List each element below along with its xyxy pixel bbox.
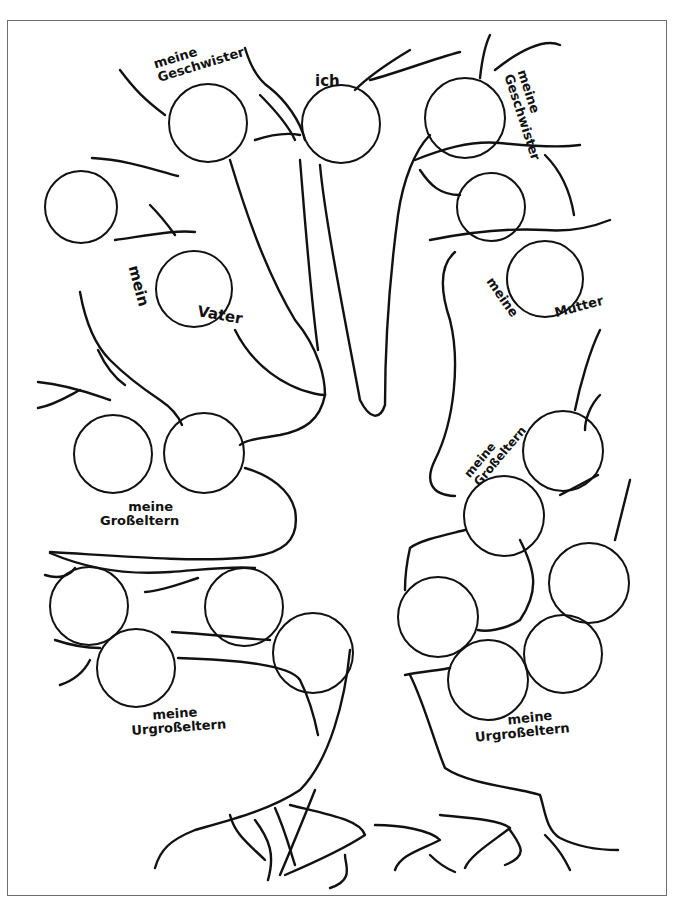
root (285, 805, 365, 875)
photo-slot-grandparent-right-2[interactable] (463, 475, 545, 557)
photo-slot-great-grandparent-right-2[interactable] (548, 542, 630, 624)
photo-slot-great-grandparent-left-4[interactable] (272, 612, 354, 694)
label-line: Großeltern (100, 514, 179, 528)
root (505, 830, 521, 865)
root (255, 820, 271, 880)
label-mother: meine Mutter (495, 275, 594, 289)
photo-slot-sibling-right-2[interactable] (456, 172, 526, 242)
root (330, 855, 347, 888)
photo-slot-great-grandparent-right-3[interactable] (523, 614, 603, 694)
label-line: ich (315, 74, 340, 90)
photo-slot-grandparent-left-1[interactable] (73, 414, 153, 494)
root (430, 855, 455, 872)
root (440, 815, 510, 868)
label-line: meine (100, 500, 179, 514)
root (230, 815, 265, 860)
root (275, 808, 295, 865)
label-father: mein Vater (145, 272, 238, 288)
photo-slot-great-grandparent-left-3[interactable] (96, 628, 176, 708)
photo-slot-me[interactable] (301, 84, 381, 164)
photo-slot-great-grandparent-left-2[interactable] (204, 567, 284, 647)
photo-slot-sibling-left-1[interactable] (168, 83, 248, 163)
label-grandparents-left: meine Großeltern (100, 500, 179, 527)
root (375, 825, 440, 870)
photo-slot-grandparent-right-1[interactable] (522, 410, 604, 492)
photo-slot-grandparent-left-2[interactable] (163, 412, 245, 494)
photo-slot-sibling-right-1[interactable] (424, 77, 506, 159)
photo-slot-sibling-left-2[interactable] (44, 170, 118, 244)
label-me: ich (315, 74, 340, 90)
photo-slot-great-grandparent-right-4[interactable] (447, 639, 529, 721)
